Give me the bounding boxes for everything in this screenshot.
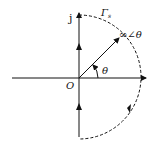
- label-j: j: [67, 12, 72, 25]
- axis-up-arrow-lower: [76, 103, 82, 110]
- nyquist-contour-diagram: j Γs ∞∠θ θ O: [0, 0, 158, 147]
- label-infinity-angle: ∞∠θ: [119, 29, 142, 40]
- label-origin: O: [66, 80, 74, 91]
- angle-arc: [93, 65, 98, 78]
- arc-direction-arrow: [127, 104, 131, 113]
- label-gamma: Γs: [100, 7, 111, 19]
- axis-up-arrow-upper: [76, 43, 82, 50]
- label-theta: θ: [102, 65, 108, 76]
- diagram-canvas: j Γs ∞∠θ θ O: [0, 0, 158, 147]
- radial-vector: [79, 38, 119, 78]
